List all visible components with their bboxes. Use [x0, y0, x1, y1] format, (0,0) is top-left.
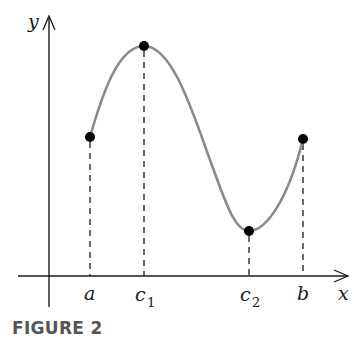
- tick-label-c2: c: [240, 283, 251, 305]
- point-c1-maximum: [139, 41, 149, 51]
- figure-canvas: y x a c 1 c 2 b: [0, 0, 356, 346]
- tick-label-c1: c: [135, 283, 146, 305]
- point-b: [298, 134, 308, 144]
- y-axis-label: y: [27, 10, 39, 32]
- x-axis-label: x: [338, 282, 349, 304]
- function-curve: [90, 46, 303, 231]
- tick-label-c2-subscript: 2: [252, 295, 260, 310]
- point-c2-minimum: [244, 226, 254, 236]
- point-a: [85, 132, 95, 142]
- tick-label-c1-subscript: 1: [147, 295, 155, 310]
- figure-caption: FIGURE 2: [12, 318, 103, 338]
- tick-label-a: a: [84, 282, 95, 304]
- tick-label-b: b: [297, 282, 309, 304]
